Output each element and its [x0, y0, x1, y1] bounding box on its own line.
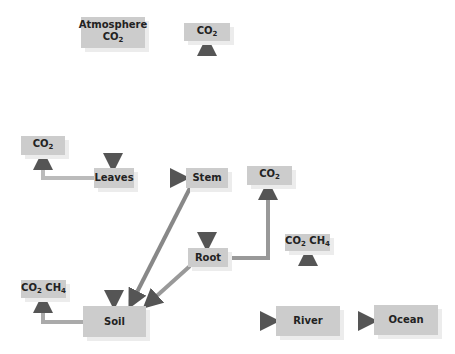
leaves-label: Leaves — [94, 172, 133, 184]
arrow-soil-gas — [43, 303, 83, 322]
subscript: 2 — [275, 173, 280, 181]
node-river: River — [276, 306, 340, 336]
co2-label: CO2 — [259, 168, 280, 183]
co2-label: CO2 — [197, 25, 218, 40]
atmosphere-co2-label: CO2 — [103, 31, 124, 46]
arrow-root-soil — [150, 266, 190, 302]
atmosphere-label: Atmosphere — [79, 19, 148, 31]
co2-label: CO2 — [33, 138, 54, 153]
subscript: 2 — [48, 143, 53, 151]
co2-ch4-label: CO2 CH4 — [285, 235, 330, 250]
co2-ch4-label: CO2 CH4 — [21, 282, 66, 297]
co-text: CO — [33, 138, 49, 149]
node-soil-gas: CO2 CH4 — [21, 280, 66, 298]
node-stem-co2: CO2 — [184, 23, 230, 41]
node-leaves-co2: CO2 — [21, 136, 65, 155]
subscript: 4 — [325, 240, 330, 248]
stem-label: Stem — [192, 172, 221, 184]
node-ocean: Ocean — [374, 305, 438, 335]
node-root-co2: CO2 — [247, 166, 292, 185]
node-stem: Stem — [186, 168, 228, 188]
node-root: Root — [188, 248, 228, 267]
subscript: 2 — [212, 30, 217, 38]
ocean-label: Ocean — [388, 314, 423, 326]
arrow-root-co2 — [228, 190, 268, 258]
river-label: River — [293, 315, 322, 327]
subscript: 2 — [118, 36, 123, 44]
node-soil: Soil — [83, 306, 146, 337]
co-text: CO — [103, 31, 119, 42]
node-atmosphere-co2: Atmosphere CO2 — [81, 17, 145, 48]
arrow-stem-soil — [133, 188, 190, 300]
carbon-flow-diagram: Atmosphere CO2 CO2 CO2 Leaves Stem CO2 R… — [0, 0, 455, 354]
root-label: Root — [195, 252, 221, 264]
soil-label: Soil — [104, 316, 125, 328]
co-text: CO — [285, 235, 301, 246]
node-river-gas: CO2 CH4 — [285, 234, 330, 251]
node-leaves: Leaves — [94, 168, 134, 188]
ch-text: CH — [306, 235, 325, 246]
co-text: CO — [197, 25, 213, 36]
arrow-leaves-co2 — [43, 160, 94, 178]
co-text: CO — [21, 282, 37, 293]
ch-text: CH — [42, 282, 61, 293]
co-text: CO — [259, 168, 275, 179]
subscript: 4 — [61, 287, 66, 295]
